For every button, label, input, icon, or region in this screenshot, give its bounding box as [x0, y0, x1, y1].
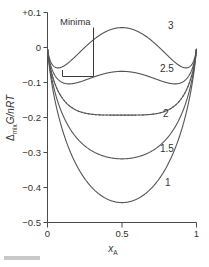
gibbs-mixing-chart: +0.10−0.1−0.2−0.3−0.4−0.5 00.51 32.521.5… — [0, 0, 209, 267]
y-tick-label: −0.1 — [22, 77, 41, 88]
y-tick-label: 0 — [36, 42, 41, 53]
y-axis-title-main: G/nRT — [5, 94, 16, 124]
y-tick-label: +0.1 — [22, 7, 41, 18]
curve-2 — [48, 49, 197, 115]
y-axis-title: ΔmixG/nRT — [5, 94, 18, 141]
curve-label-2-5: 2.5 — [160, 63, 174, 74]
y-tick-label: −0.2 — [22, 112, 41, 123]
minima-annotation-label: Minima — [60, 16, 91, 27]
x-axis-ticks — [48, 223, 197, 228]
x-axis-title-sub: A — [113, 249, 118, 256]
y-tick-label: −0.3 — [22, 147, 41, 158]
curve-label-2: 2 — [163, 108, 169, 119]
x-tick-label: 1 — [194, 228, 199, 239]
x-axis-title: xA — [107, 243, 118, 256]
curve-1 — [48, 50, 197, 203]
curve-layer — [48, 28, 197, 203]
y-tick-label: −0.5 — [22, 217, 41, 228]
svg-text:xA: xA — [107, 243, 118, 256]
curve-label-3: 3 — [168, 20, 174, 31]
curve-3 — [48, 28, 197, 68]
curve-2.5 — [48, 49, 197, 84]
x-tick-label: 0.5 — [115, 228, 128, 239]
minima-leader-line — [63, 28, 94, 77]
svg-text:ΔmixG/nRT: ΔmixG/nRT — [5, 94, 18, 141]
curve-critical-dotted — [48, 49, 197, 115]
y-axis-ticks — [44, 13, 48, 223]
curve-labels: 32.521.51 — [160, 20, 174, 188]
chart-svg: +0.10−0.1−0.2−0.3−0.4−0.5 00.51 32.521.5… — [0, 0, 209, 267]
curve-1.5 — [48, 50, 197, 159]
y-tick-labels: +0.10−0.1−0.2−0.3−0.4−0.5 — [22, 7, 41, 228]
y-tick-label: −0.4 — [22, 182, 41, 193]
scan-artifact-bar — [4, 256, 40, 260]
x-tick-labels: 00.51 — [45, 228, 199, 239]
curve-label-1: 1 — [165, 177, 171, 188]
axis-frame — [44, 13, 197, 228]
curve-label-1-5: 1.5 — [160, 143, 174, 154]
x-tick-label: 0 — [45, 228, 50, 239]
